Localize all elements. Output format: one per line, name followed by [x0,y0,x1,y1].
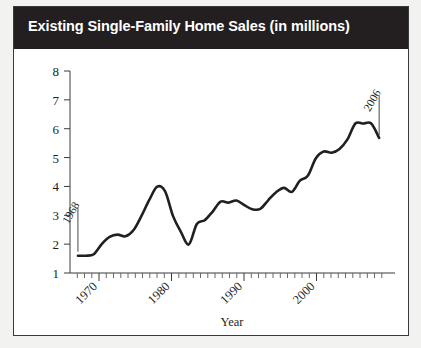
xtick-label: 1980 [145,279,173,307]
annotation-2006: 2006 [361,87,383,135]
title-banner: Existing Single-Family Home Sales (in mi… [14,7,408,49]
annotation-label: 1968 [60,199,82,225]
chart-plot-area: 8 7 6 5 4 3 2 1 [14,49,410,337]
axis-frame [70,71,395,273]
xtick-label: 2000 [290,279,318,307]
annotation-label: 2006 [361,87,383,113]
x-axis-minor-ticks [77,273,382,278]
chart-title: Existing Single-Family Home Sales (in mi… [28,18,350,34]
line-chart-svg: 8 7 6 5 4 3 2 1 [14,49,410,337]
ytick-label: 7 [53,93,60,108]
ytick-label: 2 [53,237,60,252]
ytick-label: 1 [53,266,60,281]
ytick-label: 6 [53,122,60,137]
xtick-label: 1970 [73,279,101,307]
ytick-label: 5 [53,151,60,166]
figure-card: Existing Single-Family Home Sales (in mi… [13,6,409,336]
y-axis-labels: 8 7 6 5 4 3 2 1 [53,64,60,281]
data-series-line [78,122,379,255]
y-axis-ticks [64,71,70,273]
ytick-label: 4 [53,179,60,194]
ytick-label: 3 [53,208,60,223]
ytick-label: 8 [53,64,60,79]
annotation-1968: 1968 [60,199,82,251]
x-axis-labels: 1970 1980 1990 2000 [73,279,318,307]
x-axis-title: Year [220,315,244,329]
xtick-label: 1990 [218,279,246,307]
